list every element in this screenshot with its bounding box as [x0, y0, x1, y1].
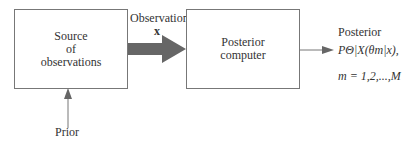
source-line2: of: [41, 43, 102, 56]
output-formula: PΘ|X(θm|x),: [338, 44, 399, 57]
source-of-observations-box: Source of observations: [14, 9, 128, 89]
posterior-line2: computer: [220, 49, 265, 62]
observation-symbol: x: [130, 25, 184, 38]
output-title: Posterior: [338, 26, 381, 39]
source-line1: Source: [41, 30, 102, 43]
posterior-computer-box: Posterior computer: [186, 9, 300, 89]
source-line3: observations: [41, 56, 102, 69]
prior-label: Prior: [55, 126, 79, 139]
output-index: m = 1,2,...,M: [338, 70, 401, 83]
observation-arrow: [126, 35, 186, 63]
observation-label: Observation x: [130, 12, 184, 38]
output-arrow-head: [322, 46, 334, 54]
prior-arrow-head: [64, 88, 72, 99]
